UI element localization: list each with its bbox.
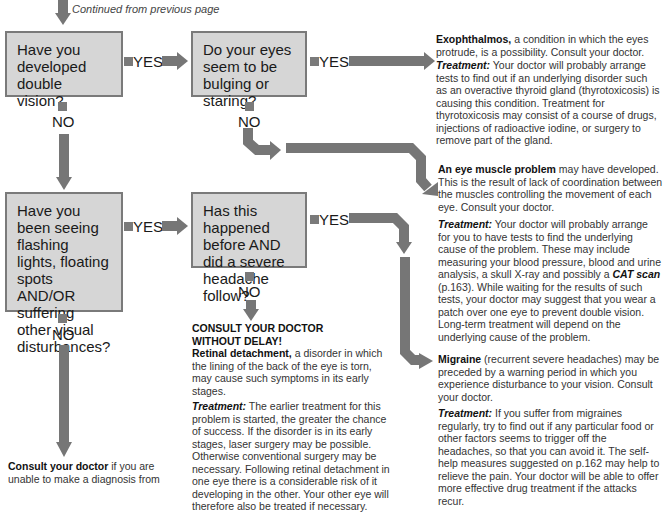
right-arrow-icon — [349, 52, 435, 70]
yes-marker — [310, 57, 319, 66]
treatment-text: The earlier treatment for this problem i… — [192, 400, 390, 512]
question-flashing-lights: Have you been seeing flashing lights, fl… — [5, 192, 123, 312]
no-marker — [58, 102, 67, 111]
continued-note: Continued from previous page — [72, 3, 219, 15]
yes-marker — [310, 215, 319, 224]
question-severe-headache: Has this happened before AND did a sever… — [191, 192, 307, 268]
treatment-label: Treatment: — [436, 59, 490, 71]
question-bulging-eyes: Do your eyes seem to be bulging or stari… — [191, 31, 307, 97]
yes-label: YES — [133, 218, 163, 235]
right-arrow-icon — [162, 217, 188, 235]
urgent-heading: CONSULT YOUR DOCTOR WITHOUT DELAY! — [192, 322, 332, 347]
outcome-title: Consult your doctor — [8, 460, 108, 472]
outcome-title: Exophthalmos, — [436, 33, 511, 45]
no-marker — [245, 102, 254, 111]
no-label: NO — [238, 283, 261, 300]
outcome-title: An eye muscle problem — [438, 163, 556, 175]
down-arrow-icon — [243, 300, 259, 322]
yes-marker — [124, 57, 133, 66]
treatment-label: Treatment: — [438, 218, 492, 230]
treatment-label: Treatment: — [192, 400, 246, 412]
yes-label: YES — [319, 211, 349, 228]
outcome-retinal-detachment: CONSULT YOUR DOCTOR WITHOUT DELAY! Retin… — [192, 322, 392, 513]
outcome-eye-muscle: An eye muscle problem may have developed… — [438, 163, 663, 343]
yes-label: YES — [319, 53, 349, 70]
bent-down-arrow-icon — [349, 210, 419, 256]
connector-arrow-icon — [399, 257, 439, 372]
no-label: NO — [52, 113, 75, 130]
no-marker — [58, 314, 67, 323]
outcome-title: Retinal detachment, — [192, 347, 292, 359]
question-text: Have you developed double vision? — [17, 41, 86, 109]
question-text: Do your eyes seem to be bulging or stari… — [203, 41, 291, 109]
down-arrow-icon — [56, 345, 72, 457]
treatment-text: If you suffer from migraines regularly, … — [438, 407, 659, 507]
treatment-text: Your doctor will probably arrange tests … — [436, 59, 660, 146]
no-label: NO — [52, 326, 75, 343]
treatment-emphasis: CAT scan — [613, 268, 661, 280]
down-arrow-icon — [56, 134, 72, 190]
outcome-title: Migraine — [438, 353, 481, 365]
treatment-text-cont: (p.163). While waiting for the results o… — [438, 281, 656, 343]
down-arrow-icon — [55, 0, 71, 26]
yes-marker — [124, 222, 133, 231]
yes-label: YES — [133, 53, 163, 70]
treatment-label: Treatment: — [438, 407, 492, 419]
bent-arrow-icon — [243, 128, 283, 168]
question-double-vision: Have you developed double vision? — [5, 31, 123, 97]
outcome-consult-doctor: Consult your doctor if you are unable to… — [8, 460, 173, 485]
right-arrow-icon — [162, 52, 188, 70]
outcome-exophthalmos: Exophthalmos, a condition in which the e… — [436, 33, 661, 147]
connector-arrow-icon — [286, 140, 461, 195]
outcome-migraine: Migraine (recurrent severe headaches) ma… — [438, 353, 663, 507]
no-marker — [245, 272, 254, 281]
